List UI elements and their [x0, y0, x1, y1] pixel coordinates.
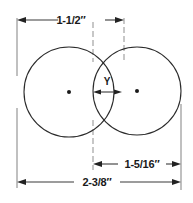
right-dimension-arrow-left [93, 161, 102, 167]
right-circle-center-dot [135, 89, 139, 93]
right-dimension-arrow-right [172, 161, 181, 167]
right-dimension-label: 1-5/16″ [124, 158, 160, 170]
left-circle-center-dot [67, 90, 71, 94]
top-dimension-arrow-right [115, 17, 124, 23]
overlap-dimension-label: Y [104, 76, 111, 87]
technical-drawing-canvas: 1-1/2″ Y 1-5/16″ 2-3/8″ [0, 0, 193, 203]
top-dimension-label: 1-1/2″ [56, 14, 86, 26]
overlap-dimension-arrow-left [93, 89, 101, 94]
bottom-dimension-arrow-left [17, 179, 26, 185]
overlap-dimension-arrow-right [114, 89, 122, 94]
bottom-dimension-arrow-right [172, 179, 181, 185]
bottom-dimension-label: 2-3/8″ [82, 176, 112, 188]
technical-drawing-svg: 1-1/2″ Y 1-5/16″ 2-3/8″ [0, 0, 193, 203]
top-dimension-arrow-left [17, 17, 26, 23]
